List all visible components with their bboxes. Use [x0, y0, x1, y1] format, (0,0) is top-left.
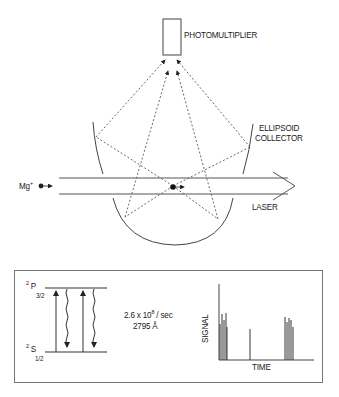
laser-label: LASER — [252, 202, 278, 212]
collector-right-arc — [243, 124, 253, 174]
ion-symbol: Mg — [19, 181, 30, 191]
lower-level-j: 1/2 — [35, 355, 43, 362]
diagram-canvas — [0, 0, 339, 397]
signal-pulses — [220, 313, 293, 360]
photomultiplier-box — [163, 19, 181, 55]
signal-axis-label: SIGNAL — [200, 314, 210, 343]
photomultiplier-label: PHOTOMULTIPLIER — [184, 30, 257, 40]
ion-label: Mg+ — [19, 180, 33, 191]
upper-level-j: 3/2 — [36, 292, 44, 299]
collector-bottom-arc — [113, 198, 233, 245]
collector-label-line2: COLLECTOR — [255, 133, 303, 143]
upper-level-label: 2P — [26, 280, 36, 291]
collector-label-line1: ELLIPSOID — [259, 123, 299, 133]
ion-charge: + — [30, 180, 33, 186]
inset-panel — [15, 271, 323, 383]
lower-level-label: 2S — [26, 343, 36, 354]
trapped-ion-dot — [170, 184, 176, 190]
time-axis-label: TIME — [252, 362, 271, 372]
incoming-ion-dot — [39, 184, 44, 189]
transition-wavelength: 2795 Å — [133, 321, 158, 331]
collector-left-arc — [93, 122, 103, 174]
transition-rate: 2.6 x 108 / sec — [124, 309, 173, 320]
energy-level-diagram — [45, 288, 107, 352]
signal-plot-axes — [219, 284, 314, 360]
light-rays — [96, 60, 250, 219]
laser-beam — [59, 172, 295, 200]
